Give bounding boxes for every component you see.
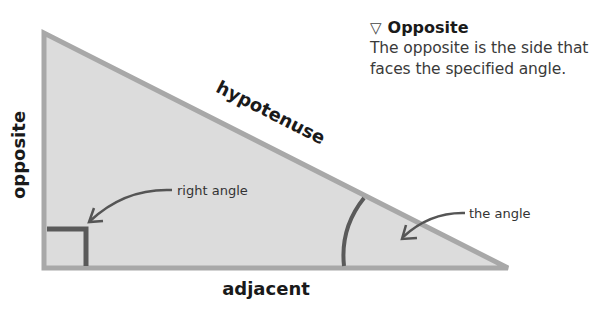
info-panel: ▽Opposite The opposite is the side that …	[370, 18, 610, 80]
the-angle-callout: the angle	[469, 206, 531, 221]
adjacent-label: adjacent	[222, 278, 310, 299]
opposite-label: opposite	[8, 111, 29, 199]
info-text-line-2: faces the specified angle.	[370, 59, 610, 80]
info-text-line-1: The opposite is the side that	[370, 38, 610, 59]
info-title-row: ▽Opposite	[370, 18, 610, 38]
down-triangle-icon: ▽	[370, 19, 382, 37]
right-angle-callout: right angle	[177, 183, 248, 198]
info-title: Opposite	[388, 18, 469, 37]
